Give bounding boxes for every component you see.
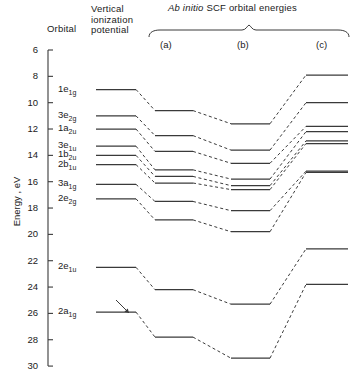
level-series-1b2u bbox=[96, 141, 348, 186]
orbital-energy-correlation-diagram: Orbital Vertical ionization potential Ab… bbox=[0, 0, 352, 374]
energy-level-lines bbox=[96, 75, 348, 358]
energy-level-plot bbox=[0, 0, 352, 374]
ab-initio-brace bbox=[149, 25, 349, 37]
level-series-2a1g bbox=[96, 284, 348, 358]
level-series-2b1u bbox=[96, 144, 348, 190]
level-series-2e1u bbox=[96, 249, 348, 304]
level-series-2e2g bbox=[96, 172, 348, 231]
y-axis bbox=[48, 50, 53, 366]
annotation-arrow bbox=[116, 300, 129, 313]
